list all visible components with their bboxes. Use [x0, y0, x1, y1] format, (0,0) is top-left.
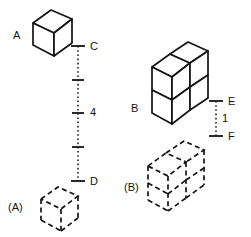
scale-cd — [71, 46, 85, 181]
label-cube-a: A — [13, 30, 20, 41]
label-cube-a-shadow: (A) — [8, 202, 23, 213]
label-distance-cd: 4 — [90, 107, 96, 118]
block-b-shadow — [148, 141, 204, 211]
figure-artwork — [0, 0, 251, 237]
label-point-c: C — [90, 41, 98, 52]
label-point-f: F — [228, 131, 235, 142]
label-distance-ef: 1 — [222, 113, 228, 124]
label-block-b-shadow: (B) — [124, 182, 139, 193]
cube-a-shadow — [41, 187, 78, 231]
label-point-d: D — [90, 176, 98, 187]
physics-figure: A (A) B (B) C 4 D E 1 F — [0, 0, 251, 237]
cube-a — [33, 10, 72, 56]
scale-ef — [209, 101, 223, 136]
label-block-b: B — [131, 103, 138, 114]
block-b — [152, 42, 208, 124]
label-point-e: E — [228, 96, 235, 107]
